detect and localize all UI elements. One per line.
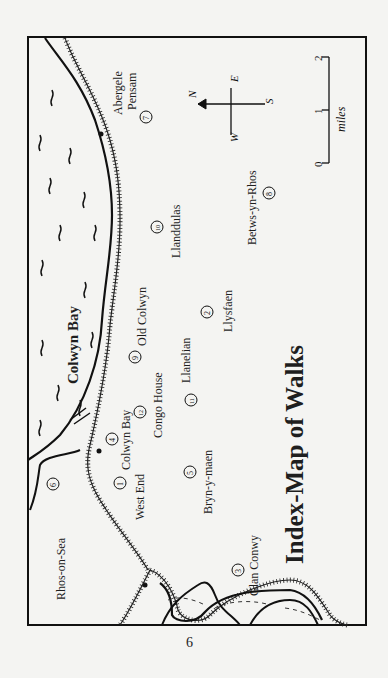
walk-marker-6[interactable]: 6 — [47, 478, 59, 490]
svg-text:W: W — [228, 132, 240, 142]
svg-text:2: 2 — [203, 311, 212, 315]
walk-marker-11[interactable]: 11 — [185, 394, 197, 406]
rhos-headland — [30, 450, 80, 510]
svg-text:7: 7 — [142, 116, 151, 120]
place-betws-yn-rhos: Betws-yn-Rhos — [245, 170, 259, 245]
walk-markers: 1 2 3 4 5 6 7 8 9 10 11 12 — [47, 111, 275, 576]
scale-bar: 0 1 2 miles — [312, 56, 348, 168]
svg-text:0: 0 — [312, 161, 324, 167]
book-page: Colwyn Bay Rhos-on-Sea West End Colwyn B… — [0, 0, 388, 678]
place-abergele: Abergele — [111, 71, 125, 115]
svg-text:E: E — [228, 75, 240, 83]
station-abergele — [99, 132, 104, 137]
place-rhos-on-sea: Rhos-on-Sea — [54, 537, 68, 600]
north-arrow-icon — [198, 99, 206, 109]
svg-text:S: S — [263, 98, 275, 104]
place-llanelian: Llanelian — [179, 338, 193, 383]
walk-marker-9[interactable]: 9 — [129, 351, 141, 363]
svg-text:10: 10 — [155, 225, 161, 231]
walk-marker-12[interactable]: 12 — [134, 406, 146, 418]
svg-text:6: 6 — [49, 483, 58, 487]
place-llysfaen: Llysfaen — [221, 290, 235, 332]
walk-marker-7[interactable]: 7 — [140, 111, 152, 123]
place-bryn-y-maen: Bryn-y-maen — [201, 450, 215, 514]
page-number: 6 — [186, 635, 193, 651]
index-map: Colwyn Bay Rhos-on-Sea West End Colwyn B… — [0, 0, 388, 678]
walk-marker-8[interactable]: 8 — [263, 187, 275, 199]
svg-text:12: 12 — [138, 410, 144, 416]
compass-rose: N S E W — [186, 75, 275, 142]
place-west-end: West End — [133, 474, 147, 520]
walk-marker-4[interactable]: 4 — [106, 433, 118, 445]
svg-text:1: 1 — [312, 109, 324, 115]
svg-text:N: N — [186, 90, 198, 99]
place-pensam: Pensam — [125, 72, 139, 110]
sea-label: Colwyn Bay — [65, 306, 81, 384]
svg-text:2: 2 — [312, 56, 324, 62]
svg-text:11: 11 — [189, 398, 195, 404]
place-congo-house: Congo House — [151, 372, 165, 438]
svg-text:9: 9 — [131, 356, 140, 360]
svg-text:3: 3 — [234, 569, 243, 573]
svg-text:4: 4 — [108, 438, 117, 442]
place-old-colwyn: Old Colwyn — [135, 287, 149, 346]
walk-marker-5[interactable]: 5 — [184, 466, 196, 478]
walk-marker-1[interactable]: 1 — [114, 477, 126, 489]
station-colwyn-bay — [97, 449, 102, 454]
svg-text:8: 8 — [265, 192, 274, 196]
map-title: Index-Map of Walks — [281, 345, 308, 564]
walk-marker-10[interactable]: 10 — [151, 221, 163, 233]
svg-text:miles: miles — [334, 106, 348, 132]
walk-marker-3[interactable]: 3 — [232, 564, 244, 576]
walk-marker-2[interactable]: 2 — [201, 306, 213, 318]
place-glan-conwy: Glan Conwy — [247, 535, 261, 596]
estuary-shore-west — [250, 600, 318, 625]
coastline — [28, 38, 112, 460]
place-llanddulas: Llanddulas — [169, 204, 183, 258]
place-colwyn-bay: Colwyn Bay — [119, 410, 133, 470]
svg-text:5: 5 — [186, 471, 195, 475]
svg-text:1: 1 — [116, 482, 125, 486]
